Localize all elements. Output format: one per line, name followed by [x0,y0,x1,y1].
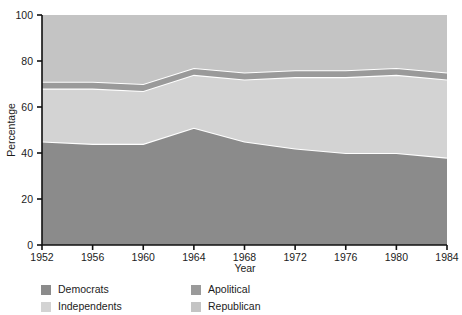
x-tick-label: 1964 [182,251,206,263]
chart-legend: Democrats Independents Apolitical Republ… [41,282,341,315]
stacked-area-chart-figure: 0204060801001952195619601964196819721976… [0,0,462,315]
legend-item-apolitical[interactable]: Apolitical [191,282,261,297]
x-tick-label: 1956 [81,251,105,263]
legend-label-democrats: Democrats [58,284,109,295]
x-axis-title: Year [234,262,256,274]
legend-label-apolitical: Apolitical [208,284,250,295]
y-tick-label: 40 [21,147,33,159]
y-tick-label: 100 [15,9,33,21]
y-tick-label: 60 [21,101,33,113]
x-tick-label: 1960 [132,251,156,263]
legend-swatch-apolitical [191,285,201,295]
legend-column-left: Democrats Independents [41,282,122,315]
y-axis-title: Percentage [5,103,17,157]
x-tick-label: 1984 [435,251,459,263]
y-tick-label: 20 [21,193,33,205]
legend-item-republican[interactable]: Republican [191,299,261,314]
x-tick-label: 1980 [385,251,409,263]
x-tick-label: 1952 [30,251,54,263]
x-tick-label: 1976 [334,251,358,263]
y-tick-label: 80 [21,55,33,67]
legend-item-independents[interactable]: Independents [41,299,122,314]
y-tick-label: 0 [27,239,33,251]
legend-column-right: Apolitical Republican [191,282,261,315]
chart-canvas: 0204060801001952195619601964196819721976… [0,0,462,315]
legend-item-democrats[interactable]: Democrats [41,282,122,297]
legend-label-republican: Republican [208,301,261,312]
plot-area-bands [42,15,447,245]
legend-swatch-democrats [41,285,51,295]
legend-label-independents: Independents [58,301,122,312]
legend-swatch-independents [41,302,51,312]
x-tick-label: 1972 [283,251,307,263]
legend-swatch-republican [191,302,201,312]
